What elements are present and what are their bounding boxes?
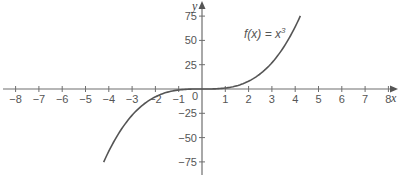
- x-tick-label: −6: [56, 93, 69, 105]
- x-tick-label: −8: [9, 93, 22, 105]
- y-tick-label: 50: [185, 34, 197, 46]
- y-axis-arrow-icon: [199, 1, 206, 9]
- x-tick-label: 7: [362, 93, 368, 105]
- y-tick-label: −25: [178, 107, 197, 119]
- x-tick-label: 5: [315, 93, 321, 105]
- function-label-exponent: 3: [281, 26, 286, 35]
- x-tick-label: 4: [292, 93, 298, 105]
- function-label-base: f(x) = x: [244, 27, 282, 41]
- x-tick-label: −3: [126, 93, 139, 105]
- y-axis-label: y: [191, 0, 198, 13]
- function-label: f(x) = x3: [244, 26, 286, 41]
- x-tick-label: 3: [269, 93, 275, 105]
- x-tick-label: −7: [33, 93, 46, 105]
- x-tick-label: 1: [222, 93, 228, 105]
- x-tick-label: −1: [172, 93, 185, 105]
- cube-function-chart: −8−7−6−5−4−3−2−112345678 755025−25−50−75…: [0, 0, 402, 177]
- x-tick-label: 2: [246, 93, 252, 105]
- x-tick-label: 6: [339, 93, 345, 105]
- x-tick-label: −5: [79, 93, 92, 105]
- origin-label: 0: [192, 90, 198, 102]
- y-tick-label: −75: [178, 156, 197, 168]
- x-axis-label: x: [390, 91, 397, 105]
- y-tick-label: −50: [178, 132, 197, 144]
- x-tick-label: −4: [103, 93, 116, 105]
- y-tick-label: 25: [185, 59, 197, 71]
